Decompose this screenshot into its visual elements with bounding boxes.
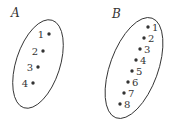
element-point: 2 xyxy=(32,46,45,57)
element-point: 8 xyxy=(118,99,130,110)
set-label: B xyxy=(111,7,121,21)
element-point: 2 xyxy=(142,33,154,44)
element-point: 6 xyxy=(126,77,138,88)
dot-icon xyxy=(36,65,39,68)
element-label: 4 xyxy=(22,78,28,89)
dot-icon xyxy=(41,49,44,52)
element-label: 8 xyxy=(124,99,130,110)
dot-icon xyxy=(130,69,133,72)
element-point: 1 xyxy=(38,29,51,40)
dot-icon xyxy=(142,36,145,39)
element-label: 1 xyxy=(38,29,44,40)
set-b: B12345678 xyxy=(93,7,174,121)
set-diagram: A1234B12345678 xyxy=(0,0,179,121)
element-point: 3 xyxy=(138,44,150,55)
element-point: 1 xyxy=(146,22,158,33)
element-label: 6 xyxy=(132,77,138,88)
element-label: 4 xyxy=(140,55,146,66)
dot-icon xyxy=(118,102,121,105)
dot-icon xyxy=(47,32,50,35)
dot-icon xyxy=(134,58,137,61)
dot-icon xyxy=(126,80,129,83)
element-point: 3 xyxy=(27,62,40,73)
element-label: 3 xyxy=(27,62,33,73)
set-a: A1234 xyxy=(3,6,73,115)
element-label: 7 xyxy=(128,88,134,99)
dot-icon xyxy=(146,25,149,28)
dot-icon xyxy=(31,81,34,84)
element-point: 4 xyxy=(22,78,35,89)
set-label: A xyxy=(10,6,20,20)
element-point: 7 xyxy=(122,88,134,99)
set-boundary-ellipse xyxy=(93,10,174,121)
dot-icon xyxy=(138,47,141,50)
element-label: 3 xyxy=(144,44,150,55)
dot-icon xyxy=(122,91,125,94)
element-point: 4 xyxy=(134,55,146,66)
element-label: 2 xyxy=(148,33,154,44)
element-label: 5 xyxy=(136,66,142,77)
element-label: 1 xyxy=(152,22,158,33)
element-point: 5 xyxy=(130,66,142,77)
element-label: 2 xyxy=(32,46,38,57)
